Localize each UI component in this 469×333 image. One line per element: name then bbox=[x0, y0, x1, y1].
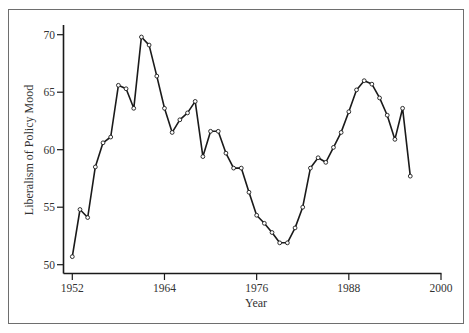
data-point bbox=[163, 106, 167, 110]
data-point bbox=[324, 160, 328, 164]
data-point bbox=[232, 166, 236, 170]
axes: 5055606570 19521964197619882000 bbox=[44, 25, 453, 294]
data-point-markers bbox=[70, 35, 412, 258]
data-point bbox=[301, 205, 305, 209]
data-point bbox=[347, 110, 351, 114]
data-point bbox=[124, 87, 128, 91]
data-point bbox=[316, 156, 320, 160]
line-chart: 5055606570 19521964197619882000 Year Lib… bbox=[0, 0, 469, 333]
data-point bbox=[285, 241, 289, 245]
data-point bbox=[170, 131, 174, 135]
data-point bbox=[155, 74, 159, 78]
data-point bbox=[247, 190, 251, 194]
data-point bbox=[201, 155, 205, 159]
data-point bbox=[385, 113, 389, 117]
data-point bbox=[70, 255, 74, 259]
data-point bbox=[408, 174, 412, 178]
data-point bbox=[216, 129, 220, 133]
data-point bbox=[270, 231, 274, 235]
data-point bbox=[93, 165, 97, 169]
data-point bbox=[101, 141, 105, 145]
x-tick-label: 1952 bbox=[61, 282, 84, 294]
data-point bbox=[132, 106, 136, 110]
data-point bbox=[186, 111, 190, 115]
policy-mood-line bbox=[72, 37, 410, 257]
data-point bbox=[78, 208, 82, 212]
y-ticks: 5055606570 bbox=[44, 29, 64, 271]
data-point bbox=[178, 118, 182, 122]
data-point bbox=[209, 129, 213, 133]
y-tick-label: 55 bbox=[44, 201, 56, 213]
data-point bbox=[378, 96, 382, 100]
y-tick-label: 50 bbox=[44, 259, 56, 271]
data-point bbox=[332, 146, 336, 150]
data-point bbox=[309, 166, 313, 170]
data-point bbox=[339, 131, 343, 135]
x-tick-label: 1964 bbox=[153, 282, 176, 294]
data-point bbox=[393, 137, 397, 141]
plot-area bbox=[70, 35, 412, 258]
x-axis-title: Year bbox=[245, 296, 267, 310]
data-point bbox=[224, 151, 228, 155]
y-tick-label: 70 bbox=[44, 29, 56, 41]
data-point bbox=[401, 106, 405, 110]
data-point bbox=[116, 83, 120, 87]
data-point bbox=[293, 226, 297, 230]
data-point bbox=[370, 82, 374, 86]
y-tick-label: 65 bbox=[44, 86, 56, 98]
data-point bbox=[278, 241, 282, 245]
x-tick-label: 1976 bbox=[245, 282, 268, 294]
data-point bbox=[86, 216, 90, 220]
data-point bbox=[239, 166, 243, 170]
data-point bbox=[362, 79, 366, 83]
y-axis-title: Liberalism of Policy Mood bbox=[22, 85, 36, 215]
data-point bbox=[109, 135, 113, 139]
x-tick-label: 1988 bbox=[337, 282, 360, 294]
data-point bbox=[262, 221, 266, 225]
data-point bbox=[193, 100, 197, 104]
y-tick-label: 60 bbox=[44, 144, 56, 156]
x-tick-label: 2000 bbox=[430, 282, 453, 294]
data-point bbox=[355, 88, 359, 92]
data-point bbox=[147, 43, 151, 47]
data-point bbox=[140, 35, 144, 39]
data-point bbox=[255, 213, 259, 217]
x-ticks: 19521964197619882000 bbox=[61, 274, 453, 295]
